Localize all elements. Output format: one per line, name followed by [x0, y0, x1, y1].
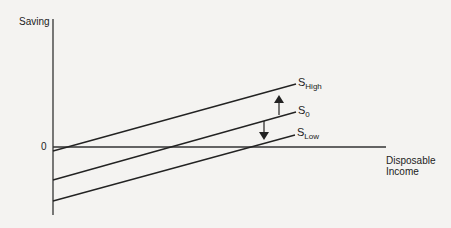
- saving-line-0: [53, 112, 296, 180]
- y-axis-label: Saving: [19, 16, 50, 27]
- arrow-up-icon: [274, 95, 284, 115]
- curve-label-low: SLow: [297, 127, 319, 139]
- curve-label-0: S0: [298, 105, 310, 117]
- saving-line-high: [53, 84, 296, 151]
- saving-line-low: [53, 135, 295, 201]
- curve-label-high: SHigh: [298, 77, 322, 89]
- x-axis-label: Disposable Income: [386, 155, 435, 177]
- diagram-canvas: [0, 0, 451, 228]
- arrow-down-icon: [259, 121, 269, 140]
- origin-label: 0: [41, 141, 47, 152]
- saving-function-diagram: Saving 0 SHigh S0 SLow Disposable Income: [0, 0, 451, 228]
